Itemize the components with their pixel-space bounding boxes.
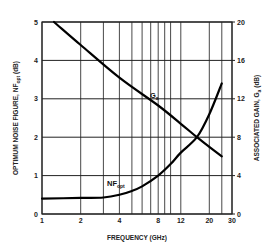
y-tick-label-right: 20 <box>237 19 245 26</box>
x-tick-label: 4 <box>117 217 121 224</box>
x-tick-label: 30 <box>228 217 236 224</box>
x-tick-label: 8 <box>156 217 160 224</box>
y-tick-label-right: 8 <box>237 134 241 141</box>
y-axis-title-right: ASSOCIATED GAIN, Ga (dB) <box>253 75 262 161</box>
y-tick-label-left: 5 <box>34 19 38 26</box>
y-axis-title-left: OPTIMUM NOISE FIGURE, NFopt (dB) <box>12 61 21 175</box>
x-tick-label: 2 <box>79 217 83 224</box>
x-tick-label: 1 <box>40 217 44 224</box>
y-tick-label-left: 4 <box>34 57 38 64</box>
tick-labels: 1248122030012345048121620 <box>34 19 245 225</box>
x-tick-label: 12 <box>177 217 185 224</box>
y-tick-label-right: 16 <box>237 57 245 64</box>
y-tick-label-left: 3 <box>34 95 38 102</box>
ga-series-label: Ga <box>150 91 159 101</box>
nfopt-series-label: NFopt <box>107 179 125 189</box>
y-tick-label-right: 12 <box>237 95 245 102</box>
y-tick-label-left: 0 <box>34 211 38 218</box>
y-tick-label-left: 1 <box>34 172 38 179</box>
y-tick-label-right: 4 <box>237 172 241 179</box>
x-axis-title: FREQUENCY (GHz) <box>107 234 167 242</box>
plot-frame <box>42 22 232 214</box>
grid-lines <box>42 22 232 214</box>
y-tick-label-right: 0 <box>237 211 241 218</box>
x-tick-label: 20 <box>205 217 213 224</box>
noise-gain-chart: 1248122030012345048121620 Ga NFopt FREQU… <box>0 0 271 246</box>
y-tick-label-left: 2 <box>34 134 38 141</box>
